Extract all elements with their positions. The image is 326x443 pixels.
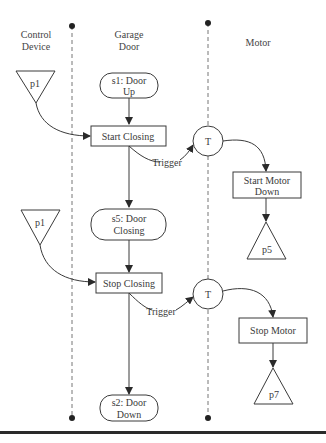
action-start-motor-down-line2: Down <box>255 186 279 197</box>
edge-start-closing-trigger-b <box>180 145 193 160</box>
place-p7: p7 <box>254 368 293 404</box>
edge-p1-to-stop-closing <box>40 245 95 282</box>
lane-divider-left <box>69 23 75 421</box>
state-s1-door-up: s1: Door Up <box>100 73 158 98</box>
action-stop-closing: Stop Closing <box>96 273 162 293</box>
transition-t1-label: T <box>205 136 211 147</box>
action-stop-motor-label: Stop Motor <box>250 325 297 336</box>
state-s5-line2: Closing <box>113 225 144 236</box>
lane-header-motor: Motor <box>246 37 272 48</box>
state-s2-door-down: s2: Door Down <box>100 395 158 421</box>
edge-t2-to-stop-motor <box>223 289 273 317</box>
place-p1-bottom-label: p1 <box>35 217 45 228</box>
lane-divider-right <box>205 20 211 421</box>
state-s1-line2: Up <box>123 86 135 97</box>
bottom-rule <box>0 431 326 434</box>
transition-t1: T <box>193 126 223 156</box>
action-start-motor-down-line1: Start Motor <box>244 175 291 186</box>
garage-door-diagram: Control Device Garage Door Motor p1 s1: … <box>0 0 326 443</box>
action-start-closing-label: Start Closing <box>102 131 155 142</box>
action-start-closing: Start Closing <box>91 126 166 146</box>
action-start-motor-down: Start Motor Down <box>233 172 301 198</box>
place-p1-bottom: p1 <box>21 210 60 245</box>
transition-t2: T <box>193 279 223 309</box>
lane-header-control-device-line1: Control <box>21 29 52 40</box>
edge-p1-to-start-closing <box>36 103 90 136</box>
edge-stop-closing-trigger-b <box>176 297 193 310</box>
place-p7-label: p7 <box>269 389 279 400</box>
state-s2-line2: Down <box>117 409 141 420</box>
place-p5: p5 <box>247 222 286 259</box>
state-s1-line1: s1: Door <box>112 75 147 86</box>
place-p1-top-label: p1 <box>30 78 40 89</box>
state-s5-door-closing: s5: Door Closing <box>91 209 166 240</box>
place-p5-label: p5 <box>262 244 272 255</box>
state-s2-line1: s2: Door <box>112 397 147 408</box>
edge-label-trigger-1: Trigger <box>152 157 182 168</box>
action-stop-motor: Stop Motor <box>239 318 307 343</box>
lane-header-garage-door-line1: Garage <box>115 29 144 40</box>
state-s5-line1: s5: Door <box>112 213 147 224</box>
action-stop-closing-label: Stop Closing <box>103 278 155 289</box>
transition-t2-label: T <box>205 289 211 300</box>
edge-label-trigger-2: Trigger <box>146 306 176 317</box>
edge-t1-to-start-motor-down <box>223 140 266 171</box>
lane-header-control-device-line2: Device <box>22 41 51 52</box>
place-p1-top: p1 <box>16 71 55 103</box>
lane-header-garage-door-line2: Door <box>119 41 140 52</box>
